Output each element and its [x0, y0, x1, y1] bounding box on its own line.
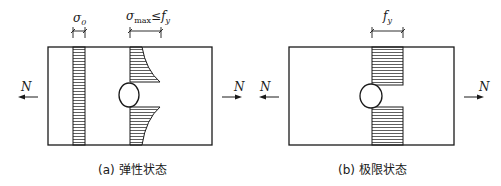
stress-concentration-upper [130, 47, 160, 82]
dim-fy [370, 27, 405, 38]
label-fy: fy [383, 9, 392, 25]
hole-a [119, 83, 139, 107]
force-label-left-b: N [260, 80, 271, 94]
force-label-right-b: N [479, 80, 490, 94]
stress-concentration-lower [130, 107, 160, 145]
arrow-left-b [259, 95, 279, 100]
diagram-canvas [0, 0, 501, 186]
caption-b: (b) 极限状态 [338, 160, 407, 177]
hole-b [360, 84, 382, 108]
dim-sigmamax [128, 27, 163, 38]
panel-b [259, 27, 484, 145]
arrow-right-a [222, 95, 242, 100]
label-sigmamax-leq-fy: σmax≤fy [126, 9, 170, 25]
force-label-left-a: N [21, 80, 32, 94]
dim-sigma0 [71, 27, 87, 38]
panel-a [18, 27, 242, 145]
arrow-left-a [18, 95, 38, 100]
force-label-right-a: N [234, 80, 245, 94]
arrow-right-b [464, 95, 484, 100]
uniform-stress-band [73, 47, 85, 145]
yield-band-upper [372, 47, 403, 85]
yield-band-lower [372, 107, 403, 145]
caption-a: (a) 弹性状态 [98, 160, 167, 177]
label-sigma0: σ0 [73, 11, 86, 27]
